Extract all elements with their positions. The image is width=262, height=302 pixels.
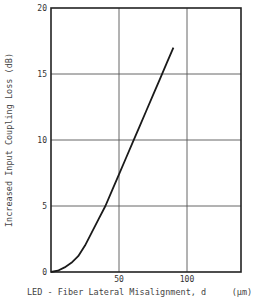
y-tick-labels: 05101520 — [37, 4, 47, 277]
y-axis-label: Increased Input Coupling Loss (dB) — [4, 53, 14, 227]
data-curve — [51, 48, 173, 272]
y-tick-label: 15 — [37, 70, 47, 79]
grid-lines — [51, 8, 241, 272]
y-tick-label: 20 — [37, 4, 47, 13]
chart: 05101520 50100 Increased Input Coupling … — [0, 0, 262, 302]
x-tick-label: 100 — [180, 275, 195, 284]
x-tick-label: 50 — [114, 275, 124, 284]
y-tick-label: 10 — [37, 136, 47, 145]
y-tick-label: 0 — [42, 268, 47, 277]
y-tick-label: 5 — [42, 202, 47, 211]
x-axis-label: LED - Fiber Lateral Misalignment, d — [27, 287, 206, 297]
x-tick-labels: 50100 — [114, 275, 194, 284]
x-axis-unit: (µm) — [232, 287, 252, 297]
